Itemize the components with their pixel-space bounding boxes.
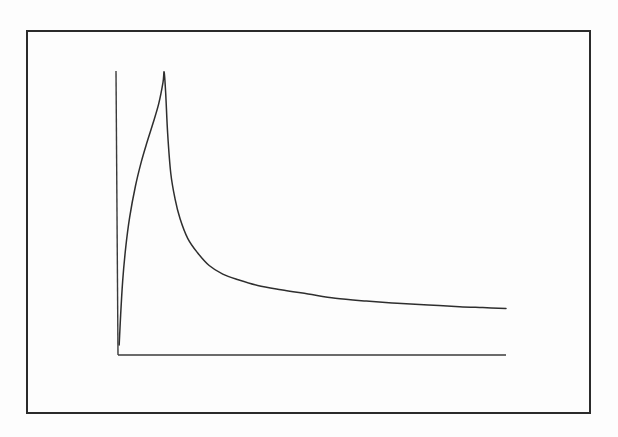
figure-background <box>0 0 618 437</box>
chart-svg-canvas <box>0 0 618 437</box>
figure-container <box>0 0 618 437</box>
